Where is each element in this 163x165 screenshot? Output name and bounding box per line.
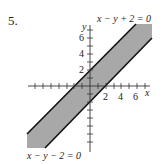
lower-line-equation: x − y − 2 = 0 — [27, 151, 81, 161]
y-tick-6: 6 — [79, 33, 84, 43]
x-tick-6: 6 — [133, 92, 138, 102]
upper-line-equation: x − y + 2 = 0 — [97, 14, 151, 24]
y-tick-4: 4 — [79, 49, 84, 59]
x-tick-4: 4 — [118, 92, 123, 102]
x-axis-label: x — [145, 88, 149, 98]
y-axis-label: y — [82, 22, 86, 32]
y-tick-2: 2 — [79, 65, 84, 75]
x-tick-2: 2 — [103, 92, 108, 102]
